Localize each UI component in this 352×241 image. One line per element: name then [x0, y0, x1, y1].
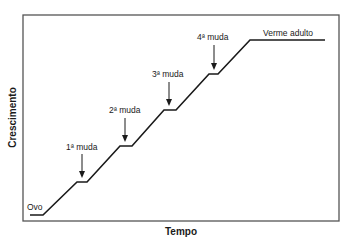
- label-1a-muda: 1ª muda: [66, 142, 98, 152]
- arrow-2-head-icon: [122, 135, 128, 142]
- x-axis-label: Tempo: [165, 226, 197, 237]
- arrow-4-head-icon: [211, 63, 217, 70]
- label-2a-muda: 2ª muda: [109, 105, 141, 115]
- label-3a-muda: 3ª muda: [152, 69, 184, 79]
- y-axis-label: Crescimento: [7, 87, 18, 149]
- growth-curve: [30, 40, 325, 215]
- label-ovo: Ovo: [27, 202, 43, 212]
- plot-frame: [23, 15, 339, 221]
- arrow-1-head-icon: [79, 171, 85, 178]
- label-verme-adulto: Verme adulto: [263, 28, 313, 38]
- label-4a-muda: 4ª muda: [197, 32, 229, 42]
- arrow-3-head-icon: [166, 99, 172, 106]
- growth-diagram: Ovo 1ª muda 2ª muda 3ª muda 4ª muda Verm…: [0, 0, 352, 241]
